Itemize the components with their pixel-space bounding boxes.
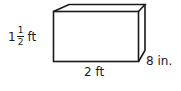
width-label: 2 ft <box>84 66 104 78</box>
height-unit: ft <box>27 31 36 43</box>
fraction-denominator: 2 <box>18 37 24 47</box>
fraction-numerator: 1 <box>17 26 25 37</box>
height-whole: 1 <box>8 31 16 43</box>
height-fraction: 1 2 <box>17 26 25 47</box>
side-face-edges <box>139 5 146 62</box>
front-face <box>54 12 139 62</box>
height-label: 1 1 2 ft <box>8 26 36 47</box>
depth-label: 8 in. <box>146 55 172 67</box>
top-face-edges <box>54 5 146 12</box>
